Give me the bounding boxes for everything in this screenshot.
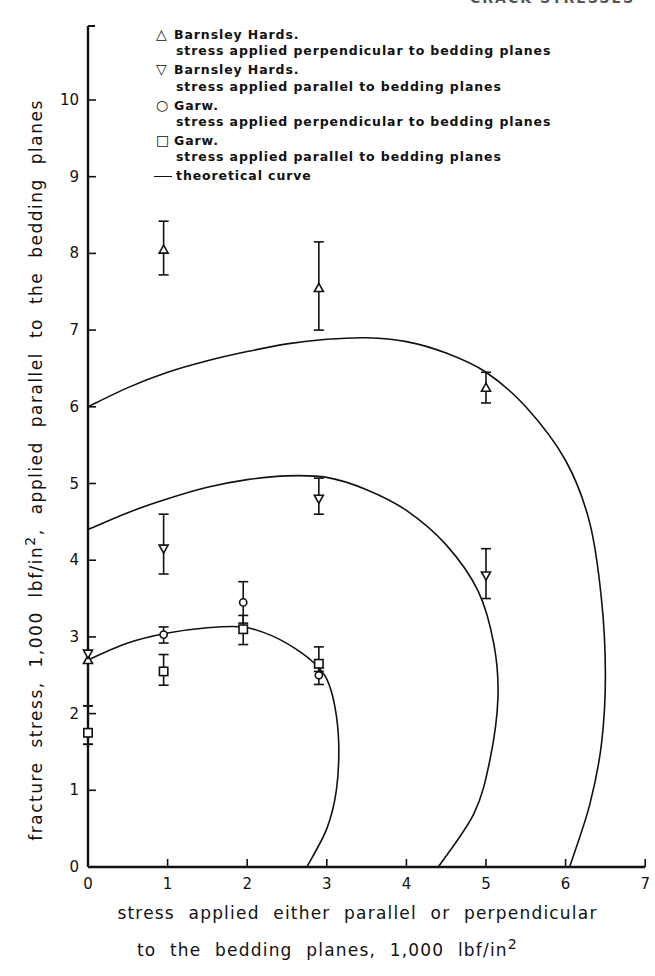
y-tick-label: 0 (69, 858, 79, 876)
triangle-up-icon: △ (156, 26, 174, 42)
triangle-down-icon (84, 650, 93, 658)
y-tick-label: 6 (69, 398, 79, 416)
theoretical-curve (88, 626, 339, 867)
triangle-down-icon (159, 545, 168, 553)
x-axis-label-line1: stress applied either parallel or perpen… (30, 903, 655, 923)
triangle-up-icon (482, 383, 491, 391)
legend-entry-barnsley-parallel: ▽Barnsley Hards. stress applied parallel… (176, 61, 551, 94)
square-icon (239, 625, 247, 633)
legend-desc: stress applied parallel to bedding plane… (176, 79, 551, 95)
square-icon (84, 729, 92, 737)
triangle-down-icon (314, 495, 323, 503)
x-axis-label-text: to the bedding planes, 1,000 lbf/in (137, 940, 508, 960)
legend-entry-garw-perpendicular: ○Garw. stress applied perpendicular to b… (176, 97, 551, 130)
legend-name: Garw. (174, 133, 219, 148)
triangle-up-icon (159, 245, 168, 253)
y-tick-label: 5 (69, 475, 79, 493)
y-axis-label-text-2: , applied parallel to the bedding planes (26, 99, 46, 535)
x-tick-label: 4 (402, 875, 412, 893)
legend-name: Barnsley Hards. (174, 27, 299, 42)
y-axis-label-text: fracture stress, 1,000 lbf/in (26, 546, 46, 841)
circle-icon (240, 599, 247, 606)
legend-name: theoretical curve (176, 168, 312, 183)
circle-icon: ○ (156, 97, 174, 113)
legend: △Barnsley Hards. stress applied perpendi… (176, 26, 551, 186)
y-tick-label: 7 (69, 321, 79, 339)
theoretical-curve (88, 476, 498, 867)
y-tick-label: 3 (69, 628, 79, 646)
y-tick-label: 10 (60, 91, 79, 109)
y-tick-label: 8 (69, 244, 79, 262)
tick-labels: 01234567012345678910 (60, 91, 650, 893)
legend-name: Garw. (174, 98, 219, 113)
x-tick-label: 5 (481, 875, 491, 893)
x-axis-label-line2: to the bedding planes, 1,000 lbf/in2 (0, 936, 655, 960)
triangle-up-icon (314, 283, 323, 291)
data-points (83, 221, 491, 744)
legend-entry-barnsley-perpendicular: △Barnsley Hards. stress applied perpendi… (176, 26, 551, 59)
x-tick-label: 6 (561, 875, 571, 893)
square-icon (159, 667, 167, 675)
x-tick-label: 2 (242, 875, 252, 893)
theoretical-curve (88, 338, 605, 867)
legend-desc: stress applied perpendicular to bedding … (176, 114, 551, 130)
legend-entry-theoretical-curve: theoretical curve (176, 168, 551, 184)
legend-desc: stress applied perpendicular to bedding … (176, 43, 551, 59)
square-icon: □ (156, 132, 174, 148)
square-icon (315, 660, 323, 668)
y-tick-label: 1 (69, 781, 79, 799)
legend-entry-garw-parallel: □Garw. stress applied parallel to beddin… (176, 132, 551, 165)
y-axis-label: fracture stress, 1,000 lbf/in2, applied … (22, 99, 46, 840)
x-axis-label-sup: 2 (508, 936, 518, 952)
x-tick-label: 3 (322, 875, 332, 893)
x-tick-label: 7 (640, 875, 650, 893)
theoretical-curves (88, 338, 605, 867)
line-icon (154, 176, 172, 177)
y-tick-label: 4 (69, 551, 79, 569)
y-tick-label: 9 (69, 168, 79, 186)
triangle-down-icon: ▽ (156, 61, 174, 77)
circle-icon (160, 631, 167, 638)
y-axis-label-sup: 2 (22, 535, 38, 546)
legend-name: Barnsley Hards. (174, 62, 299, 77)
x-tick-label: 1 (163, 875, 173, 893)
y-tick-label: 2 (69, 705, 79, 723)
x-tick-label: 0 (83, 875, 93, 893)
triangle-down-icon (482, 572, 491, 580)
circle-icon (315, 672, 322, 679)
legend-desc: stress applied parallel to bedding plane… (176, 149, 551, 165)
